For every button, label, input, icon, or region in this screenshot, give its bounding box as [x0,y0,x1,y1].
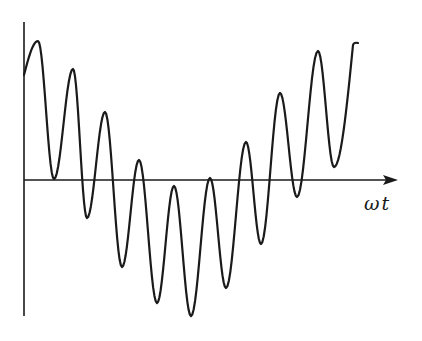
waveform-diagram [0,0,422,341]
oscillating-waveform [24,41,358,316]
x-axis-label: ωt [364,192,391,214]
